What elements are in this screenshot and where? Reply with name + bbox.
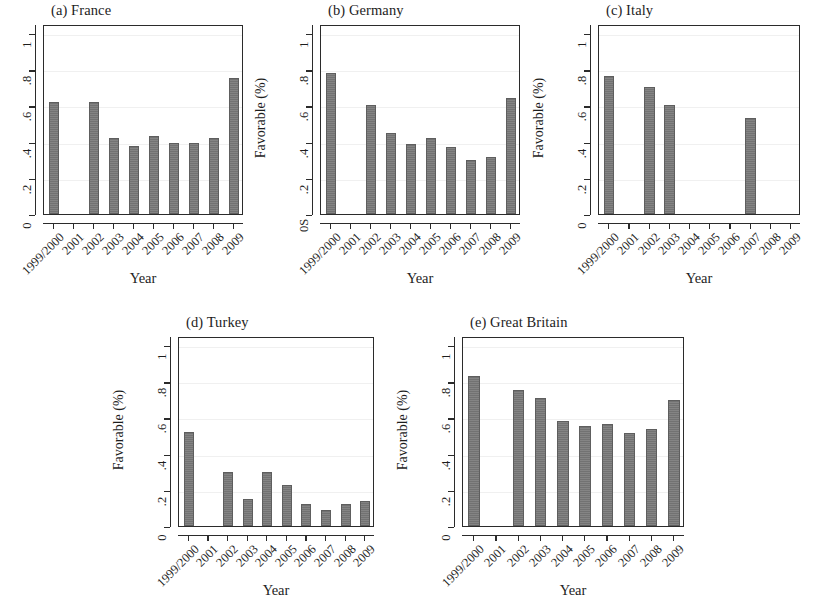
y-tick-label: .6 — [155, 418, 170, 440]
x-tick — [562, 535, 563, 541]
panel-title-c: (c) Italy — [606, 2, 653, 19]
x-tick — [207, 535, 208, 541]
y-tick-label: .6 — [439, 418, 454, 440]
x-tick — [350, 223, 351, 229]
x-tick — [709, 223, 710, 229]
y-tick-label: .2 — [575, 178, 590, 200]
x-tick — [370, 223, 371, 229]
y-tick-label: .8 — [155, 382, 170, 404]
x-tick — [364, 535, 365, 541]
y-axis-title: Favorable (%) — [395, 370, 411, 490]
bar — [535, 398, 547, 526]
bar — [189, 143, 199, 214]
bar — [109, 138, 119, 214]
bar — [646, 429, 658, 526]
x-axis-title: Year — [513, 582, 633, 596]
y-tick-label: 0S — [297, 215, 312, 237]
x-tick — [729, 223, 730, 229]
y-tick-label: .4 — [439, 454, 454, 476]
x-tick — [390, 223, 391, 229]
y-tick-label: .6 — [575, 106, 590, 128]
x-tick — [173, 223, 174, 229]
x-tick — [73, 223, 74, 229]
x-tick — [227, 535, 228, 541]
x-tick — [473, 535, 474, 541]
x-tick — [606, 535, 607, 541]
panel-b: (b) Germany0S.2.4.6.81Favorable (%)1999/… — [288, 2, 540, 287]
plot-area-c — [598, 25, 800, 215]
y-tick-label: 0 — [439, 527, 454, 549]
x-tick — [628, 223, 629, 229]
x-tick — [188, 535, 189, 541]
y-tick-label: .2 — [439, 490, 454, 512]
y-axis-title: Favorable (%) — [111, 370, 127, 490]
y-tick-label: .4 — [297, 142, 312, 164]
bar — [513, 390, 525, 526]
x-tick — [113, 223, 114, 229]
y-tick-label: .6 — [20, 106, 35, 128]
plot-area-e — [462, 337, 684, 527]
y-tick-label: 1 — [155, 346, 170, 368]
x-tick — [750, 223, 751, 229]
bars-b — [321, 26, 519, 214]
y-tick-label: .2 — [155, 490, 170, 512]
bar — [229, 78, 239, 214]
bar — [426, 138, 436, 214]
bar — [446, 147, 456, 214]
y-tick-label: .2 — [297, 178, 312, 200]
x-tick — [669, 223, 670, 229]
bar — [604, 76, 615, 214]
bar — [184, 432, 194, 526]
bar — [209, 138, 219, 214]
bar — [282, 485, 292, 526]
bar — [49, 102, 59, 214]
bar — [644, 87, 655, 214]
bar — [557, 421, 569, 526]
bar — [223, 472, 233, 526]
x-tick — [450, 223, 451, 229]
bar — [664, 105, 675, 214]
bar — [506, 98, 516, 214]
y-axis-line — [454, 337, 455, 527]
bar — [668, 400, 680, 526]
x-tick — [305, 535, 306, 541]
bar — [341, 504, 351, 526]
y-tick-label: 0 — [20, 215, 35, 237]
bars-e — [463, 338, 683, 526]
x-tick — [673, 535, 674, 541]
x-tick — [233, 223, 234, 229]
bar — [366, 105, 376, 214]
x-tick — [470, 223, 471, 229]
y-axis-line — [590, 25, 591, 215]
bar — [89, 102, 99, 214]
y-tick-label: 0 — [155, 527, 170, 549]
panel-a: (a) France0.2.4.6.81Favorable (%)1999/20… — [8, 2, 263, 287]
y-axis-line — [35, 25, 36, 215]
x-tick — [266, 535, 267, 541]
y-tick-label: .8 — [575, 70, 590, 92]
y-axis-line — [170, 337, 171, 527]
x-tick — [330, 223, 331, 229]
bar — [602, 424, 614, 526]
bar — [321, 510, 331, 526]
plot-area-d — [178, 337, 374, 527]
bar — [262, 472, 272, 526]
bar — [301, 504, 311, 526]
y-tick-label: .4 — [575, 142, 590, 164]
bar — [579, 426, 591, 526]
bar — [169, 143, 179, 214]
bar — [326, 73, 336, 214]
y-tick-label: .4 — [20, 142, 35, 164]
x-tick — [629, 535, 630, 541]
x-tick — [510, 223, 511, 229]
x-tick — [430, 223, 431, 229]
y-tick-label: .6 — [297, 106, 312, 128]
x-tick — [133, 223, 134, 229]
x-tick — [193, 223, 194, 229]
panel-e: (e) Great Britain0.2.4.6.81Favorable (%)… — [455, 314, 704, 596]
plot-area-b — [320, 25, 520, 215]
y-tick-label: 1 — [20, 34, 35, 56]
x-tick — [325, 535, 326, 541]
x-tick — [651, 535, 652, 541]
x-tick — [689, 223, 690, 229]
